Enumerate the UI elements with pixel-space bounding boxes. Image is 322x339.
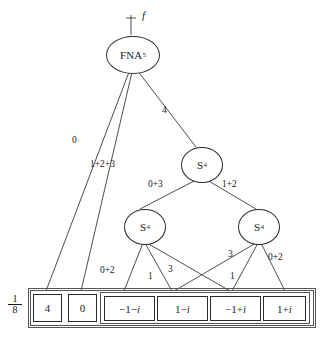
leaf-1-minus-i-imag: i	[187, 303, 190, 315]
scale-factor-fraction: 1 8	[8, 294, 22, 315]
s4-node-left-label: S	[140, 222, 146, 233]
edge-s4b-to-leaf-m1mi	[124, 243, 143, 291]
edge-s4c-to-leaf-1pi	[261, 243, 285, 291]
edge-label-1-2: 1+2	[222, 180, 237, 190]
s4-node-left-subscript: 4	[146, 224, 150, 231]
edge-root-to-leaf0	[81, 72, 132, 291]
edge-root-to-leaf4	[46, 72, 129, 291]
edge-label-3-right: 3	[228, 250, 233, 260]
leaf-1-plus-i-imag: i	[289, 303, 292, 315]
edge-label-0: 0	[72, 136, 77, 146]
edge-s4b-to-leaf-m1pi	[147, 243, 230, 291]
fna-node[interactable]: FNA5	[106, 36, 160, 74]
edge-label-3-left: 3	[168, 265, 173, 275]
leaf-minus1-plus-i[interactable]: −1+i	[210, 296, 261, 321]
leaf-4-label: 4	[45, 302, 51, 314]
leaf-1-minus-i[interactable]: 1−i	[157, 296, 208, 321]
s4-node-level2[interactable]: S4	[181, 147, 223, 183]
decomposition-diagram: f FNA5 S4 S4 S4 0 1+2+3 4 0+3 1+2 0+2 1 …	[0, 0, 322, 339]
s4-node-right-subscript: 4	[260, 224, 264, 231]
s4-node-level2-subscript: 4	[203, 162, 207, 169]
leaf-minus1-minus-i-prefix: −1−	[119, 303, 137, 315]
edge-label-0-2-left: 0+2	[100, 266, 115, 276]
input-function-label: f	[142, 9, 145, 21]
s4-node-right[interactable]: S4	[238, 209, 280, 245]
leaf-minus1-plus-i-imag: i	[243, 303, 246, 315]
leaf-4[interactable]: 4	[33, 294, 62, 322]
leaf-0[interactable]: 0	[68, 294, 97, 322]
edge-label-4: 4	[162, 106, 167, 116]
leaf-0-label: 0	[80, 302, 86, 314]
s4-node-left[interactable]: S4	[124, 209, 166, 245]
scale-factor-denominator: 8	[8, 305, 22, 315]
edge-label-0-2-right: 0+2	[268, 253, 283, 263]
s4-node-right-label: S	[254, 222, 260, 233]
edge-label-0-3: 0+3	[148, 180, 163, 190]
fna-node-subscript: 5	[142, 52, 146, 59]
leaf-minus1-minus-i[interactable]: −1−i	[104, 296, 155, 321]
leaf-1-minus-i-prefix: 1−	[175, 303, 187, 315]
fna-node-label: FNA	[120, 50, 142, 61]
leaf-minus1-minus-i-imag: i	[137, 303, 140, 315]
leaf-1-plus-i[interactable]: 1+i	[263, 296, 306, 321]
edge-label-1-left: 1	[148, 272, 153, 282]
edge-s4c-to-leaf-1mi	[174, 243, 256, 291]
s4-node-level2-label: S	[197, 160, 203, 171]
edge-s4c-to-leaf-m1pi	[232, 243, 258, 291]
edge-label-1-right: 1	[230, 272, 235, 282]
leaf-1-plus-i-prefix: 1+	[277, 303, 289, 315]
leaf-minus1-plus-i-prefix: −1+	[225, 303, 243, 315]
edge-label-1-2-3: 1+2+3	[90, 160, 115, 170]
